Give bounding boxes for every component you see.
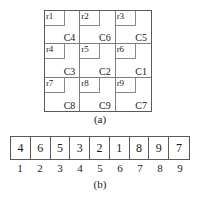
- grid-cell: r1 C4: [45, 11, 80, 44]
- grid-cell: r6 C1: [116, 44, 151, 77]
- array-index: 7: [130, 161, 150, 175]
- c-label: C2: [99, 66, 111, 78]
- array-index: 1: [10, 161, 30, 175]
- array-index: 5: [90, 161, 110, 175]
- array-cell: 4: [11, 137, 31, 159]
- c-label: C1: [135, 66, 147, 78]
- array-cell: 8: [130, 137, 150, 159]
- r-label: r5: [81, 43, 88, 55]
- panel-b-caption: (b): [0, 178, 200, 191]
- array-index: 6: [110, 161, 130, 175]
- r-label: r8: [81, 77, 88, 89]
- grid-cell: r9 C7: [116, 78, 151, 111]
- grid-cell: r7 C8: [45, 78, 80, 111]
- grid-container: r1 C4 r2 C6 r3 C5 r4 C3 r5 C2 r6 C1: [45, 11, 151, 111]
- grid-cell: r8 C9: [80, 78, 115, 111]
- array-cell: 5: [51, 137, 71, 159]
- c-label: C3: [64, 66, 76, 78]
- c-label: C9: [99, 100, 111, 112]
- r-label: r4: [46, 43, 53, 55]
- array-cell: 7: [169, 137, 189, 159]
- array-index-row: 1 2 3 4 5 6 7 8 9: [10, 161, 190, 175]
- grid-cell: r2 C6: [80, 11, 115, 44]
- array-cell: 9: [149, 137, 169, 159]
- array-container: 4 6 5 3 2 1 8 9 7: [10, 136, 190, 160]
- r-label: r9: [117, 77, 124, 89]
- panel-b-array-diagram: 4 6 5 3 2 1 8 9 7: [10, 136, 190, 160]
- c-label: C6: [99, 32, 111, 44]
- r-label: r3: [117, 10, 124, 22]
- c-label: C4: [64, 32, 76, 44]
- array-cell: 6: [31, 137, 51, 159]
- grid-cell: r5 C2: [80, 44, 115, 77]
- array-index: 3: [50, 161, 70, 175]
- array-index: 4: [70, 161, 90, 175]
- c-label: C5: [135, 32, 147, 44]
- array-cell: 1: [110, 137, 130, 159]
- c-label: C8: [64, 100, 76, 112]
- array-index: 2: [30, 161, 50, 175]
- array-index: 8: [150, 161, 170, 175]
- array-cell: 2: [90, 137, 110, 159]
- grid-cell: r3 C5: [116, 11, 151, 44]
- panel-a-grid-diagram: r1 C4 r2 C6 r3 C5 r4 C3 r5 C2 r6 C1: [44, 10, 152, 112]
- grid-cell: r4 C3: [45, 44, 80, 77]
- r-label: r6: [117, 43, 124, 55]
- c-label: C7: [135, 100, 147, 112]
- r-label: r2: [81, 10, 88, 22]
- r-label: r1: [46, 10, 53, 22]
- array-cell: 3: [70, 137, 90, 159]
- r-label: r7: [46, 77, 53, 89]
- array-index: 9: [170, 161, 190, 175]
- panel-a-caption: (a): [0, 113, 200, 126]
